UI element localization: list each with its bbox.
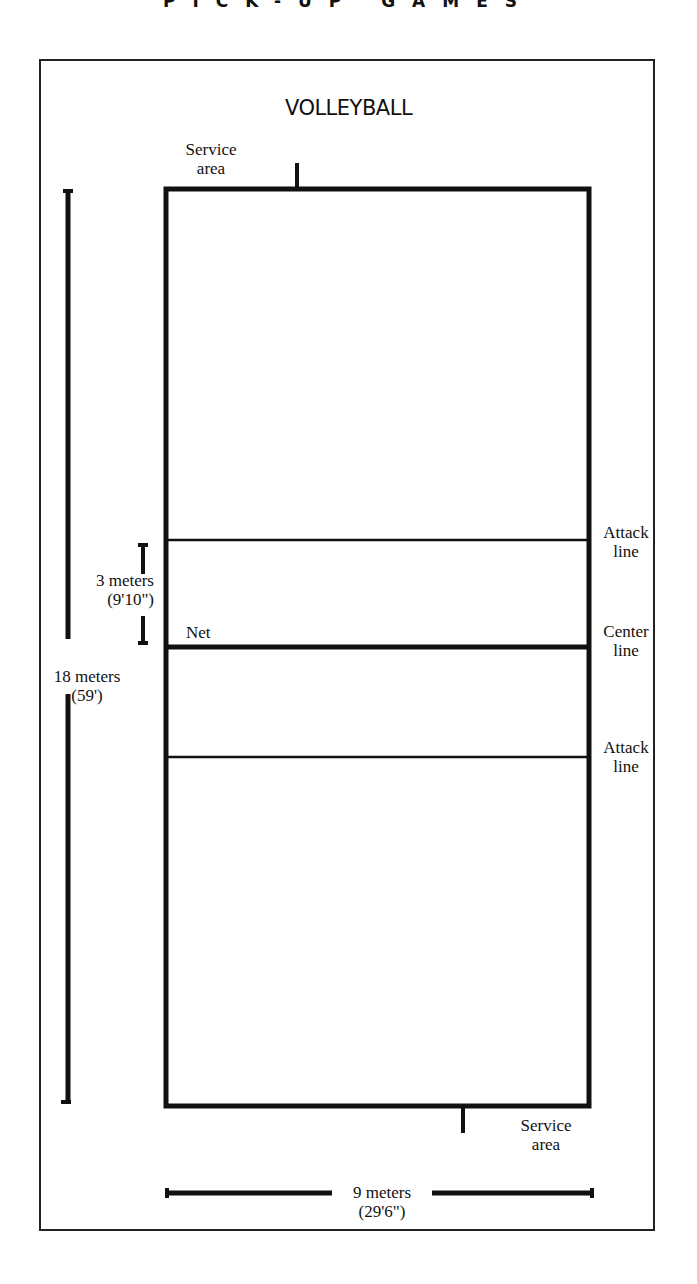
label-line: line [593,542,659,561]
label-center-line: Center line [592,622,660,660]
label-line: line [592,641,660,660]
label-width-dimension: 9 meters (29'6") [332,1183,432,1221]
dimension-metric: 3 meters [64,571,154,590]
label-attack-zone-dimension: 3 meters (9'10") [64,571,154,609]
label-line: Attack [593,738,659,757]
length-dimension-line [61,191,73,1102]
dimension-metric: 9 meters [332,1183,432,1202]
label-attack-line-top: Attack line [593,523,659,561]
dimension-imperial: (9'10") [64,590,154,609]
label-line: Center [592,622,660,641]
label-attack-line-bottom: Attack line [593,738,659,776]
label-line: area [176,159,246,178]
label-service-area-top: Service area [176,140,246,178]
label-net: Net [186,623,211,642]
label-length-dimension: 18 meters (59') [40,667,134,705]
dimension-imperial: (29'6") [332,1202,432,1221]
label-line: Attack [593,523,659,542]
dimension-imperial: (59') [40,686,134,705]
label-line: Service [176,140,246,159]
label-line: area [510,1135,582,1154]
label-line: Service [510,1116,582,1135]
label-service-area-bottom: Service area [510,1116,582,1154]
dimension-metric: 18 meters [40,667,134,686]
label-line: line [593,757,659,776]
